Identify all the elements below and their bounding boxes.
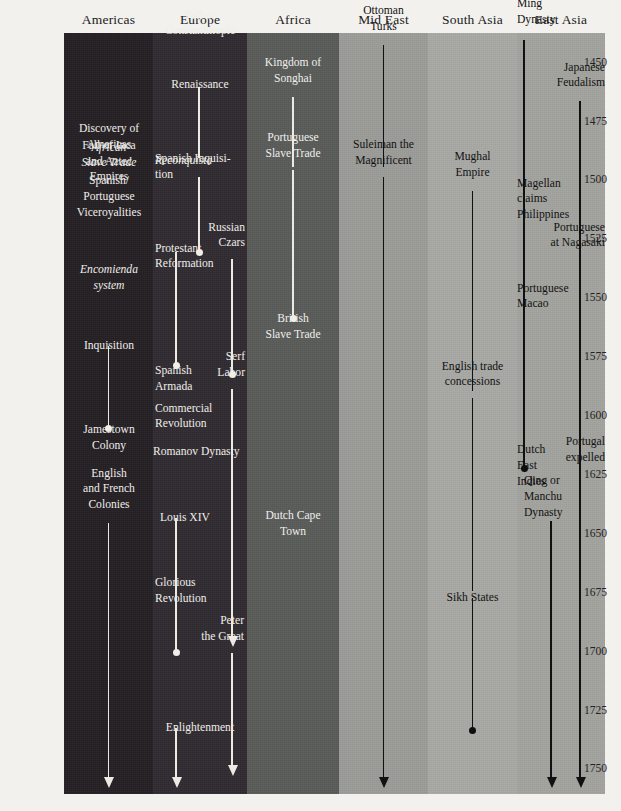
column-header-africa: Africa — [247, 12, 339, 28]
event-label: Suleiman the Magnificent — [339, 137, 428, 168]
year-label: 1750 — [559, 762, 621, 774]
event-duration-line — [472, 598, 474, 730]
duration-line-stroke — [550, 521, 552, 777]
event-label: Renaissance — [155, 77, 245, 93]
duration-line-stroke — [383, 177, 385, 777]
year-label: 1700 — [559, 645, 621, 657]
event-label: Mughal Empire — [430, 149, 515, 180]
event-label: Magellan claims Philippines — [517, 176, 585, 223]
event-duration-line — [579, 476, 581, 777]
event-label: Portuguese Slave Trade — [249, 130, 337, 161]
event-duration-line — [231, 653, 233, 766]
event-end-arrow — [547, 777, 557, 788]
duration-line-stroke — [579, 476, 581, 777]
event-end-arrow — [576, 777, 586, 788]
event-label: Ming Dynasty — [517, 0, 577, 28]
duration-line-stroke — [231, 653, 233, 766]
event-end-arrow — [104, 777, 114, 788]
event-label: English and French Colonies — [66, 466, 152, 513]
event-end-arrow — [379, 777, 389, 788]
event-duration-line — [292, 170, 294, 318]
year-label: 1575 — [559, 350, 621, 362]
event-label: Portuguese at Nagasaki — [540, 220, 605, 251]
event-label: Dutch Cape Town — [249, 508, 337, 539]
event-label: Encomienda system — [66, 262, 152, 293]
event-label: Japanese Feudalism — [545, 60, 605, 91]
duration-line-stroke — [292, 170, 294, 318]
event-label: Ottoman Turks — [341, 3, 426, 34]
duration-line-stroke — [108, 523, 110, 777]
event-label: Louis XIV — [160, 510, 236, 526]
column-header-south-asia: South Asia — [428, 12, 517, 28]
event-label: Kingdom of Songhai — [249, 55, 337, 86]
event-end-dot — [173, 649, 180, 656]
event-duration-line — [472, 398, 474, 591]
event-label: Spanish/ Portuguese Viceroyalities — [66, 173, 152, 220]
event-end-dot — [469, 727, 476, 734]
event-label: Sikh States — [428, 590, 517, 606]
event-label: Fall of Constantinople — [155, 8, 245, 39]
event-label: Inquisition — [66, 338, 152, 354]
event-end-arrow — [172, 777, 182, 788]
event-label: Glorious Revolution — [155, 575, 231, 606]
event-label: Enlightenment — [153, 720, 247, 736]
event-end-arrow — [228, 765, 238, 776]
duration-line-stroke — [523, 40, 525, 469]
event-label: Portuguese Macao — [517, 281, 585, 312]
event-label: Serf Labor — [185, 349, 245, 380]
event-duration-line — [383, 177, 385, 777]
event-label: Peter the Great — [186, 613, 244, 644]
event-label: Spanish Inquisi- tion — [155, 151, 245, 182]
column-header-americas: Americas — [64, 12, 153, 28]
year-label: 1675 — [559, 586, 621, 598]
year-label: 1600 — [559, 409, 621, 421]
year-label: 1725 — [559, 704, 621, 716]
year-label: 1650 — [559, 527, 621, 539]
duration-line-stroke — [472, 398, 474, 591]
duration-line-stroke — [472, 598, 474, 730]
duration-line-stroke — [108, 346, 110, 428]
event-label: British Slave Trade — [249, 311, 337, 342]
event-label: Commercial Revolution — [155, 401, 233, 432]
duration-line-stroke — [198, 87, 200, 158]
event-label: Russian Czars — [185, 220, 245, 251]
year-label: 1475 — [559, 115, 621, 127]
event-label: Jamestown Colony — [66, 422, 152, 453]
event-label: Portugal expelled — [545, 434, 605, 465]
event-label: Qing or Manchu Dynasty — [524, 473, 584, 520]
event-duration-line — [523, 40, 525, 469]
event-label: Romanov Dynasty — [153, 444, 247, 460]
timeline-chart: Americas Europe Africa Mid East South As… — [0, 0, 621, 811]
event-duration-line — [108, 523, 110, 777]
event-label: English trade concessions — [428, 359, 517, 390]
event-duration-line — [198, 87, 200, 158]
event-duration-line — [108, 346, 110, 428]
event-duration-line — [550, 521, 552, 777]
